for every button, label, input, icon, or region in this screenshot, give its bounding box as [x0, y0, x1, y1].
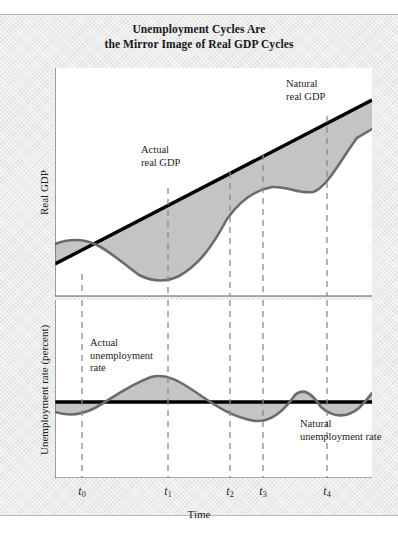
annotation-actual-unemployment-line-1: Actual: [90, 337, 153, 350]
annotation-natural-unemployment-rate: Natural unemployment rate: [300, 418, 381, 443]
figure-title-line-1: Unemployment Cycles Are: [0, 22, 398, 37]
annotation-actual-unemployment-line-3: rate: [90, 362, 153, 375]
unemployment-panel: [55, 300, 372, 478]
x-tick-label-t3: t3: [259, 484, 266, 499]
x-tick-label-t2-subscript: 2: [230, 490, 234, 499]
x-axis-label-time: Time: [0, 508, 398, 520]
x-tick-label-t3-subscript: 3: [263, 490, 267, 499]
annotation-actual-real-gdp-line-2: real GDP: [141, 157, 180, 170]
annotation-natural-real-gdp-line-1: Natural: [286, 78, 325, 91]
x-tick-label-t1-subscript: 1: [168, 490, 172, 499]
annotation-actual-unemployment-line-2: unemployment: [90, 350, 153, 363]
annotation-actual-real-gdp-line-1: Actual: [141, 144, 180, 157]
figure-root: Unemployment Cycles Are the Mirror Image…: [0, 0, 398, 540]
figure-title: Unemployment Cycles Are the Mirror Image…: [0, 22, 398, 52]
y-axis-label-unemployment-rate: Unemployment rate (percent): [38, 325, 50, 455]
x-tick-label-t0-subscript: 0: [82, 490, 86, 499]
annotation-natural-real-gdp-line-2: real GDP: [286, 91, 325, 104]
y-axis-label-real-gdp: Real GDP: [38, 170, 50, 215]
annotation-actual-real-gdp: Actual real GDP: [141, 144, 180, 169]
annotation-natural-unemployment-line-1: Natural: [300, 418, 381, 431]
figure-title-line-2: the Mirror Image of Real GDP Cycles: [0, 37, 398, 52]
charts-canvas: [55, 68, 372, 478]
annotation-natural-real-gdp: Natural real GDP: [286, 78, 325, 103]
x-tick-label-t2: t2: [226, 484, 233, 499]
x-tick-label-t0: t0: [78, 484, 85, 499]
unemployment-plot-background: [55, 300, 372, 478]
x-tick-label-t4: t4: [323, 484, 330, 499]
charts-svg: [55, 68, 372, 478]
x-tick-label-t4-subscript: 4: [327, 490, 331, 499]
x-tick-label-t1: t1: [164, 484, 171, 499]
annotation-natural-unemployment-line-2: unemployment rate: [300, 431, 381, 444]
annotation-actual-unemployment-rate: Actual unemployment rate: [90, 337, 153, 375]
